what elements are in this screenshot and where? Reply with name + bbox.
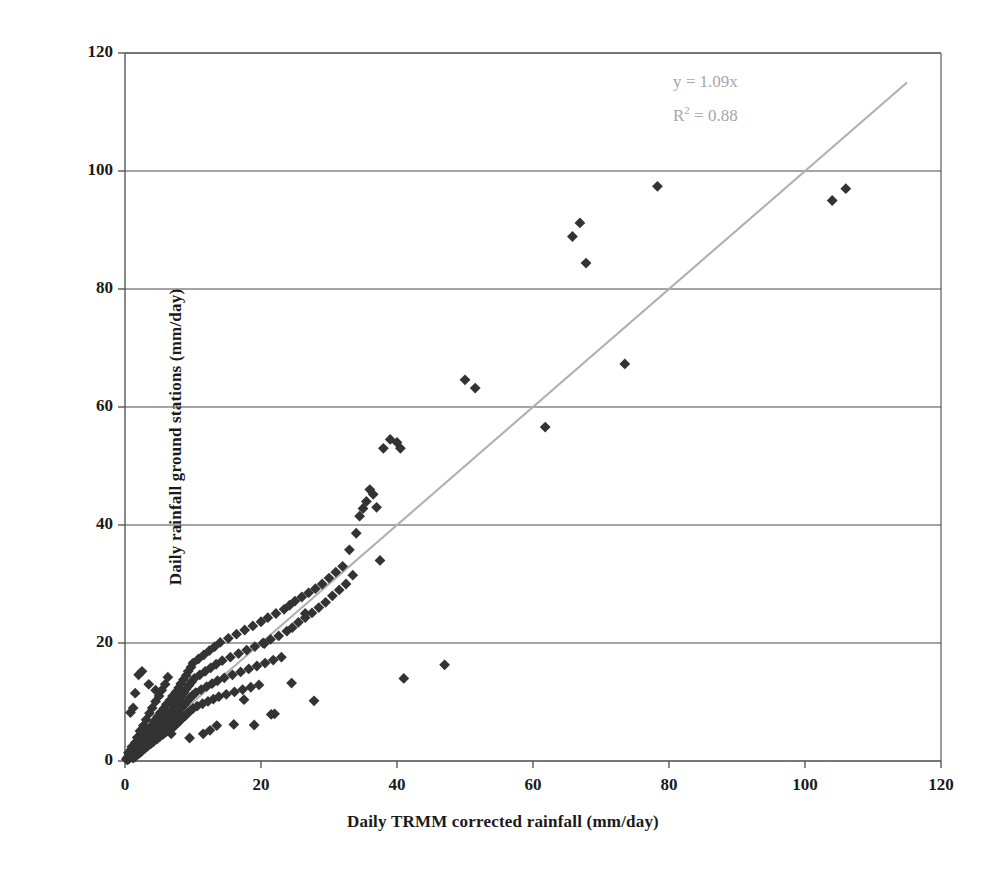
r-squared-value: = 0.88	[690, 106, 738, 125]
r-squared-annotation: R2 = 0.88	[673, 104, 738, 126]
chart-container: Daily rainfall ground stations (mm/day) …	[0, 0, 1006, 874]
equation-annotation: y = 1.09x	[673, 72, 738, 92]
gridlines	[125, 53, 941, 643]
r-squared-symbol: R	[673, 106, 684, 125]
data-points	[121, 181, 851, 765]
trend-line	[125, 83, 907, 762]
scatter-plot-canvas	[0, 0, 1006, 874]
